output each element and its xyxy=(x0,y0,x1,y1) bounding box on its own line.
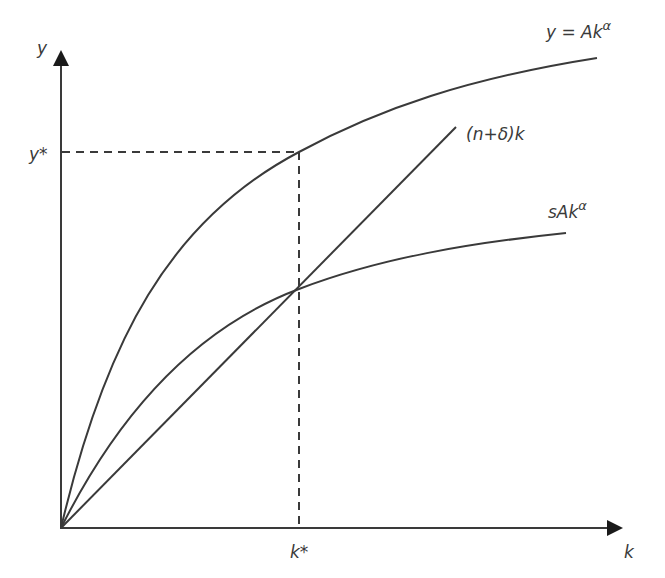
savings-label-exponent: α xyxy=(578,198,587,213)
x-axis-arrow-icon xyxy=(607,520,623,536)
savings-curve-label: sAkα xyxy=(548,198,587,222)
y-axis-arrow-icon xyxy=(53,50,69,66)
production-curve-label: y = Akα xyxy=(545,18,612,42)
x-axis-label: k xyxy=(624,542,635,562)
depreciation-line-label: (n+δ)k xyxy=(466,124,526,144)
savings-label-main: sAk xyxy=(548,202,579,222)
production-label-exponent: α xyxy=(603,18,612,33)
y-axis-label: y xyxy=(36,38,48,58)
depreciation-line xyxy=(61,127,456,528)
k-star-label: k* xyxy=(290,542,308,562)
y-star-label: y* xyxy=(28,144,48,164)
savings-curve xyxy=(61,233,566,528)
solow-diagram: y k y* k* y = Akα (n+δ)k sAkα xyxy=(0,0,665,578)
production-label-main: y = Ak xyxy=(545,22,604,42)
